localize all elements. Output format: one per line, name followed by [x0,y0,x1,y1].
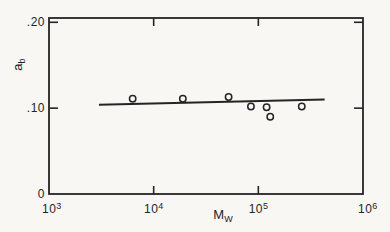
data-point [129,96,135,102]
x-axis-title-sub: W [224,214,233,224]
x-tick-label: 103 [42,199,61,216]
x-axis-title-base: M [213,207,224,222]
x-tick-label-base: 10 [144,202,158,216]
y-axis-title-sub: b [17,58,27,63]
x-tick-label: 106 [358,199,377,216]
x-tick-label-exponent: 4 [158,201,163,211]
x-tick-label-base: 10 [249,202,263,216]
scanned-figure: 0.10.20103104105106 ab MW [0,0,390,232]
x-tick-label: 104 [132,199,176,216]
y-axis-title-base: a [10,63,25,70]
data-point [263,104,269,110]
x-tick-label-base: 10 [42,202,56,216]
data-point [267,114,273,120]
plot-frame [49,18,363,194]
data-point [225,94,231,100]
chart-canvas [0,0,390,232]
y-tick-label: .10 [5,101,45,115]
data-point [248,103,254,109]
x-tick-label-exponent: 6 [372,201,377,211]
x-tick-label-base: 10 [358,202,372,216]
x-axis-title: MW [201,207,245,224]
y-tick-label: .20 [5,15,45,29]
y-tick-label: 0 [5,187,45,201]
x-tick-label-exponent: 3 [56,201,61,211]
data-point [180,96,186,102]
y-axis-title: ab [10,45,27,85]
data-point [299,103,305,109]
x-tick-label-exponent: 5 [263,201,268,211]
